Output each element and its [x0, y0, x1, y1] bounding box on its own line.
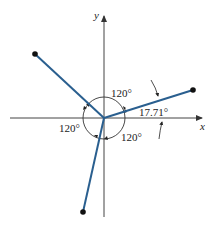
vector-upper-left [35, 54, 104, 118]
angle-label-bottom: 120° [121, 131, 142, 143]
endpoint-right [190, 87, 196, 93]
y-axis-label: y [93, 9, 99, 21]
angle-label-left: 120° [59, 122, 80, 134]
endpoint-lower [80, 209, 86, 215]
angle-pointer-bottom-icon [159, 122, 162, 139]
x-axis-label: x [199, 120, 205, 132]
vector-lower [83, 118, 104, 212]
diagram-svg: y x 120° 120° 120° 17.71° [0, 0, 215, 232]
vector-diagram: y x 120° 120° 120° 17.71° [0, 0, 215, 232]
angle-pointer-top-icon [151, 80, 158, 96]
angle-label-top: 120° [111, 87, 132, 99]
angle-label-right: 17.71° [139, 106, 168, 118]
endpoint-upper-left [32, 51, 38, 57]
